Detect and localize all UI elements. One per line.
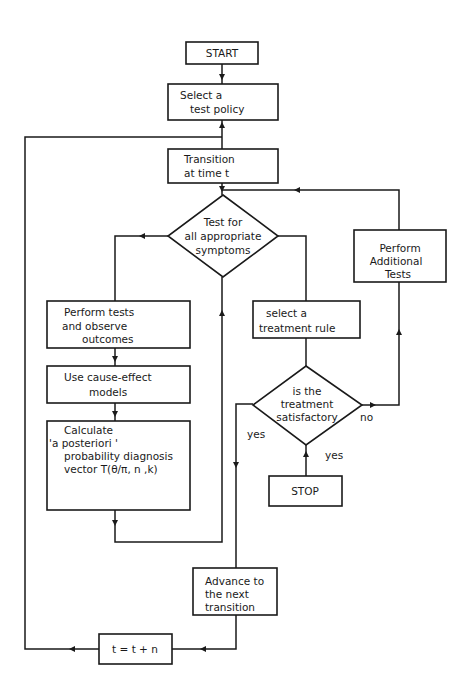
node-transition: Transition at time t [168, 149, 278, 183]
svg-text:is the: is the [293, 385, 322, 397]
svg-text:vector T(θ/π, n ,k): vector T(θ/π, n ,k) [64, 463, 158, 475]
svg-text:models: models [89, 386, 127, 398]
arrow-head-icon [219, 74, 225, 80]
svg-text:probability diagnosis: probability diagnosis [64, 450, 173, 462]
svg-text:select a: select a [266, 307, 307, 319]
svg-text:symptoms: symptoms [196, 244, 251, 256]
edge-advance-to-increment [172, 615, 236, 649]
svg-text:Use cause-effect: Use cause-effect [64, 371, 152, 383]
decision-test-symptoms: Test for all appropriate symptoms [168, 195, 278, 277]
svg-text:Select a: Select a [180, 89, 222, 101]
arrow-head-icon [219, 310, 225, 316]
svg-text:Perform: Perform [379, 242, 420, 254]
svg-text:treatment: treatment [281, 398, 334, 410]
flowchart: START Select a test policy Transition at… [0, 0, 472, 700]
svg-text:outcomes: outcomes [82, 333, 134, 345]
arrow-head-icon [370, 402, 376, 408]
arrow-head-icon [69, 646, 75, 652]
svg-text:t = t + n: t = t + n [112, 643, 158, 655]
node-calculate: Calculate 'a posteriori ' probability di… [47, 421, 190, 510]
edge-label-yes-left: yes [247, 428, 265, 440]
arrow-head-icon [294, 187, 300, 193]
svg-text:satisfactory: satisfactory [276, 411, 337, 423]
node-increment-time: t = t + n [99, 634, 172, 664]
arrow-head-icon [200, 646, 206, 652]
arrow-head-icon [139, 233, 145, 239]
node-cause-effect: Use cause-effect models [47, 366, 190, 403]
node-select-treatment-rule: select a treatment rule [253, 301, 360, 338]
svg-text:Test for: Test for [203, 216, 243, 228]
node-select-test-policy: Select a test policy [168, 84, 278, 120]
arrow-head-icon [303, 451, 309, 457]
svg-text:test policy: test policy [190, 103, 244, 115]
svg-text:transition: transition [205, 601, 255, 613]
edge-label-yes-down: yes [325, 449, 343, 461]
svg-text:STOP: STOP [291, 485, 319, 497]
svg-text:Additional: Additional [370, 255, 423, 267]
node-stop: STOP [269, 476, 342, 506]
svg-text:Perform tests: Perform tests [64, 306, 134, 318]
arrow-head-icon [112, 356, 118, 362]
edge-label-no: no [360, 411, 373, 423]
svg-text:Transition: Transition [183, 153, 235, 165]
arrow-head-icon [219, 186, 225, 192]
node-perform-tests: Perform tests and observe outcomes [47, 301, 190, 348]
edge-test-to-treatment [278, 236, 306, 301]
arrow-head-icon [396, 329, 402, 335]
edge-test-to-perform [115, 236, 168, 301]
arrow-head-icon [112, 411, 118, 417]
svg-text:START: START [206, 47, 239, 59]
svg-text:all appropriate: all appropriate [185, 230, 262, 242]
decision-treatment-satisfactory: is the treatment satisfactory [253, 366, 362, 445]
node-additional-tests: Perform Additional Tests [354, 230, 446, 282]
arrow-head-icon [112, 520, 118, 526]
svg-text:the next: the next [205, 588, 249, 600]
svg-text:at time t: at time t [184, 167, 229, 179]
arrow-head-icon [219, 122, 225, 128]
svg-text:Advance to: Advance to [205, 575, 264, 587]
svg-text:'a posteriori ': 'a posteriori ' [49, 437, 118, 449]
edge-check-no [362, 282, 399, 405]
svg-text:Calculate: Calculate [64, 424, 113, 436]
svg-text:Tests: Tests [384, 268, 411, 280]
svg-text:and observe: and observe [62, 320, 127, 332]
svg-text:treatment rule: treatment rule [259, 322, 335, 334]
node-advance: Advance to the next transition [193, 568, 277, 615]
node-start: START [186, 42, 258, 64]
arrow-head-icon [233, 462, 239, 468]
